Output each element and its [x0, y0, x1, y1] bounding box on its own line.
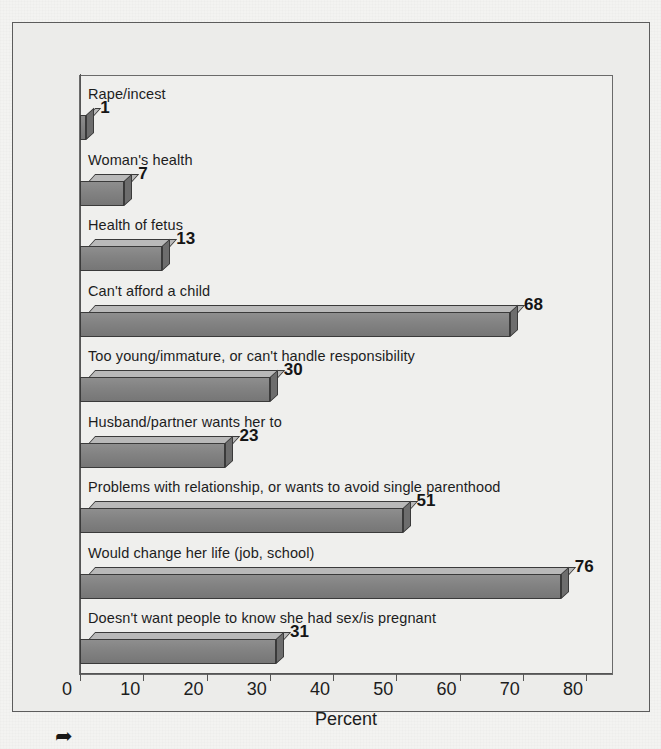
- bar-value-label: 76: [575, 557, 594, 577]
- bar-value-label: 7: [138, 164, 147, 184]
- bar-value-label: 68: [524, 295, 543, 315]
- bar-side-face: [162, 239, 170, 271]
- x-axis-tick-label: 50: [373, 679, 393, 700]
- bar-row: Husband/partner wants her to23: [80, 414, 612, 478]
- bar-row: Rape/incest1: [80, 86, 612, 150]
- bar-row: Would change her life (job, school)76: [80, 545, 612, 609]
- x-axis-tick: [333, 674, 334, 681]
- bar-side-face: [403, 501, 411, 533]
- plot-area: Rape/incest1Woman's health7Health of fet…: [80, 76, 612, 674]
- x-axis-title: Percent: [79, 709, 613, 730]
- bar-front-face: [80, 574, 561, 599]
- x-axis-tick: [396, 674, 397, 681]
- bar-side-face: [225, 435, 233, 467]
- bar-front-face: [80, 508, 403, 533]
- bar-side-face: [276, 632, 284, 664]
- bar-row: Too young/immature, or can't handle resp…: [80, 348, 612, 412]
- bar-front-face: [80, 115, 86, 140]
- figure-outer-frame: Rape/incest1Woman's health7Health of fet…: [12, 22, 650, 712]
- bar-front-face: [80, 639, 276, 664]
- bar-value-label: 30: [284, 360, 303, 380]
- bar-category-label: Would change her life (job, school): [88, 545, 315, 561]
- x-axis-tick-label: 10: [120, 679, 140, 700]
- x-axis-tick-label: 40: [310, 679, 330, 700]
- bar-row: Problems with relationship, or wants to …: [80, 479, 612, 543]
- bar-category-label: Doesn't want people to know she had sex/…: [88, 610, 436, 626]
- bar-side-face: [124, 173, 132, 205]
- x-axis-tick-label: 70: [500, 679, 520, 700]
- bar-front-face: [80, 246, 162, 271]
- bar-value-label: 13: [176, 229, 195, 249]
- x-axis-tick-label: 30: [247, 679, 267, 700]
- bar-front-face: [80, 443, 225, 468]
- x-axis-tick: [143, 674, 144, 681]
- bar-front-face: [80, 377, 270, 402]
- x-axis-tick-label: 60: [436, 679, 456, 700]
- x-axis-tick: [460, 674, 461, 681]
- bar-side-face: [270, 370, 278, 402]
- x-axis-tick-label: 0: [62, 679, 72, 700]
- bar-value-label: 23: [239, 426, 258, 446]
- x-axis-tick-label: 80: [563, 679, 583, 700]
- x-axis-tick-label: 20: [183, 679, 203, 700]
- bar-row: Doesn't want people to know she had sex/…: [80, 610, 612, 674]
- x-axis-tick: [80, 674, 81, 681]
- scan-artifact-arrow-icon: ➦: [55, 726, 77, 746]
- bar-side-face: [86, 108, 94, 140]
- bar-category-label: Can't afford a child: [88, 283, 210, 299]
- bar-category-label: Problems with relationship, or wants to …: [88, 479, 501, 495]
- x-axis-line: [80, 673, 612, 674]
- chart-screenshot: Rape/incest1Woman's health7Health of fet…: [0, 0, 661, 749]
- bar-front-face: [80, 312, 510, 337]
- bar-row: Health of fetus13: [80, 217, 612, 281]
- bar-category-label: Too young/immature, or can't handle resp…: [88, 348, 415, 364]
- x-axis-tick: [586, 674, 587, 681]
- bar-value-label: 1: [100, 98, 109, 118]
- bar-front-face: [80, 181, 124, 206]
- bar-row: Woman's health7: [80, 152, 612, 216]
- plot-frame: Rape/incest1Woman's health7Health of fet…: [79, 75, 613, 675]
- x-axis-tick: [270, 674, 271, 681]
- bar-value-label: 51: [417, 491, 436, 511]
- bar-row: Can't afford a child68: [80, 283, 612, 347]
- x-axis-tick: [523, 674, 524, 681]
- x-axis-tick: [207, 674, 208, 681]
- bar-value-label: 31: [290, 622, 309, 642]
- bar-category-label: Health of fetus: [88, 217, 183, 233]
- bar-side-face: [510, 304, 518, 336]
